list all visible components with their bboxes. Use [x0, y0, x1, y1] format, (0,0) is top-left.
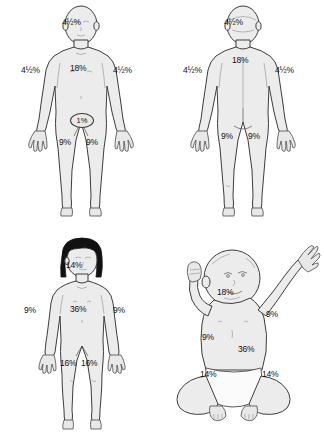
label-adult-front-leg-right: 9%: [86, 138, 98, 147]
label-adult-front-genital: 1%: [70, 113, 94, 128]
label-child-arm-right: 9%: [113, 306, 125, 315]
label-adult-front-arm-right: 4½%: [113, 66, 132, 75]
label-adult-front-trunk: 18%: [70, 64, 86, 73]
label-infant-trunk: 36%: [238, 345, 254, 354]
label-adult-front-leg-left: 9%: [59, 138, 71, 147]
figure-infant: [162, 230, 324, 435]
label-adult-back-arm-right: 4½%: [275, 66, 294, 75]
figure-adult-front: 4½% 4½% 18% 4½% 1% 9% 9%: [0, 0, 162, 220]
label-adult-back-trunk: 18%: [232, 56, 248, 65]
label-infant-leg-left: 14%: [200, 370, 216, 379]
label-adult-back-leg-right: 9%: [248, 132, 260, 141]
label-infant-arm-up: 9%: [266, 310, 278, 319]
infant-illustration: [162, 230, 324, 435]
label-adult-front-arm-left: 4½%: [21, 66, 40, 75]
label-child-leg-left: 16%: [60, 359, 76, 368]
label-infant-arm-down: 9%: [202, 333, 214, 342]
label-child-trunk: 36%: [70, 305, 86, 314]
label-adult-front-head: 4½%: [62, 18, 81, 27]
adult-back-illustration: [162, 0, 324, 220]
label-adult-back-arm-left: 4½%: [183, 66, 202, 75]
label-infant-head: 18%: [217, 288, 233, 297]
label-adult-back-head: 4½%: [224, 18, 243, 27]
burn-percentage-chart: 4½% 4½% 18% 4½% 1% 9% 9%: [0, 0, 324, 435]
label-child-head: 14%: [66, 261, 82, 270]
figure-adult-back: 4½% 4½% 18% 4½% 9% 9%: [162, 0, 324, 220]
label-child-leg-right: 16%: [81, 359, 97, 368]
label-infant-leg-right: 14%: [262, 370, 278, 379]
adult-front-illustration: [0, 0, 162, 220]
label-adult-back-leg-left: 9%: [221, 132, 233, 141]
label-child-arm-left: 9%: [24, 306, 36, 315]
